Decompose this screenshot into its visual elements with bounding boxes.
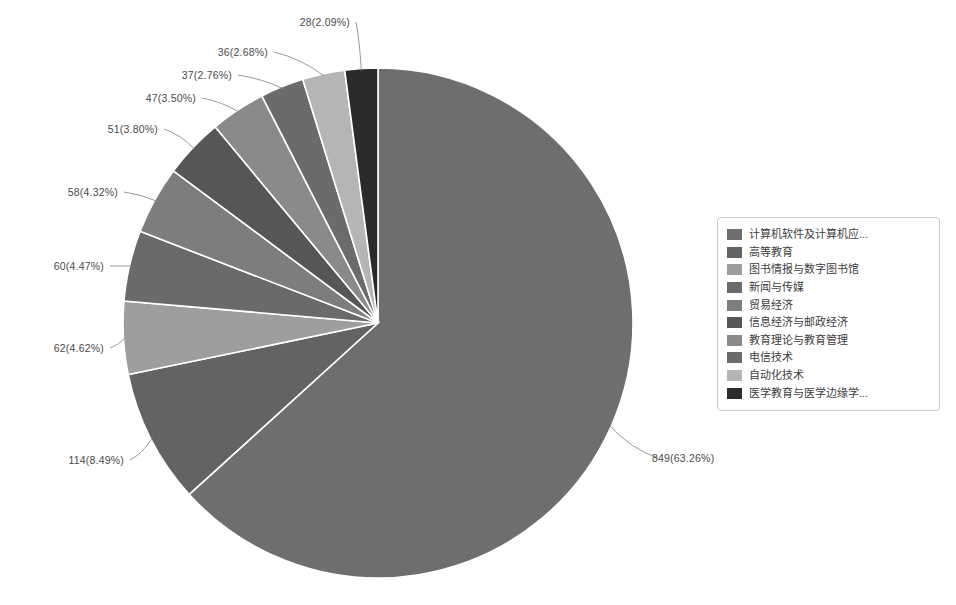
data-label-5: 51(3.80%) [108,123,158,135]
legend-swatch-icon [727,229,742,240]
legend-item[interactable]: 图书情报与数字图书馆 [727,261,932,279]
legend-item[interactable]: 贸易经济 [727,296,932,314]
legend-item-label: 贸易经济 [749,299,793,312]
legend-item-label: 自动化技术 [749,369,804,382]
legend-swatch-icon [727,335,742,346]
legend-swatch-icon [727,352,742,363]
legend-item[interactable]: 医学教育与医学边缘学... [727,384,932,402]
pie-slices-group [123,68,633,578]
legend-item-label: 信息经济与邮政经济 [749,316,848,329]
leader-line [164,129,194,149]
leader-line [238,75,283,89]
leader-line [130,438,153,460]
pie-chart-figure: 849(63.26%) 114(8.49%) 62(4.62%) 60(4.47… [0,0,956,605]
chart-legend: 计算机软件及计算机应... 高等教育 图书情报与数字图书馆 新闻与传媒 贸易经济… [717,217,940,411]
data-label-0: 849(63.26%) [652,452,714,464]
legend-swatch-icon [727,317,742,328]
legend-swatch-icon [727,247,742,258]
data-label-2: 62(4.62%) [54,342,104,354]
data-label-1: 114(8.49%) [68,454,124,466]
leader-line [609,425,658,458]
legend-item-label: 教育理论与教育管理 [749,334,848,347]
legend-item-label: 高等教育 [749,246,793,259]
legend-item-label: 医学教育与医学边缘学... [749,387,868,400]
legend-item[interactable]: 计算机软件及计算机应... [727,226,932,244]
legend-item-label: 计算机软件及计算机应... [749,228,868,241]
legend-item-label: 新闻与传媒 [749,281,804,294]
legend-item[interactable]: 高等教育 [727,244,932,262]
data-label-9: 28(2.09%) [300,16,350,28]
leader-line [274,52,324,76]
leader-line [124,192,156,201]
legend-item[interactable]: 新闻与传媒 [727,279,932,297]
legend-item[interactable]: 信息经济与邮政经济 [727,314,932,332]
legend-swatch-icon [727,300,742,311]
data-label-7: 37(2.76%) [182,69,232,81]
data-label-4: 58(4.32%) [68,186,118,198]
legend-item[interactable]: 自动化技术 [727,367,932,385]
legend-swatch-icon [727,370,742,381]
legend-item-label: 图书情报与数字图书馆 [749,263,859,276]
data-label-6: 47(3.50%) [146,92,196,104]
legend-item[interactable]: 教育理论与教育管理 [727,332,932,350]
leader-line [202,98,239,112]
legend-swatch-icon [727,264,742,275]
leader-line [356,22,361,71]
legend-swatch-icon [727,388,742,399]
legend-swatch-icon [727,282,742,293]
data-label-3: 60(4.47%) [54,260,104,272]
legend-item[interactable]: 电信技术 [727,349,932,367]
data-label-8: 36(2.68%) [218,46,268,58]
legend-item-label: 电信技术 [749,351,793,364]
